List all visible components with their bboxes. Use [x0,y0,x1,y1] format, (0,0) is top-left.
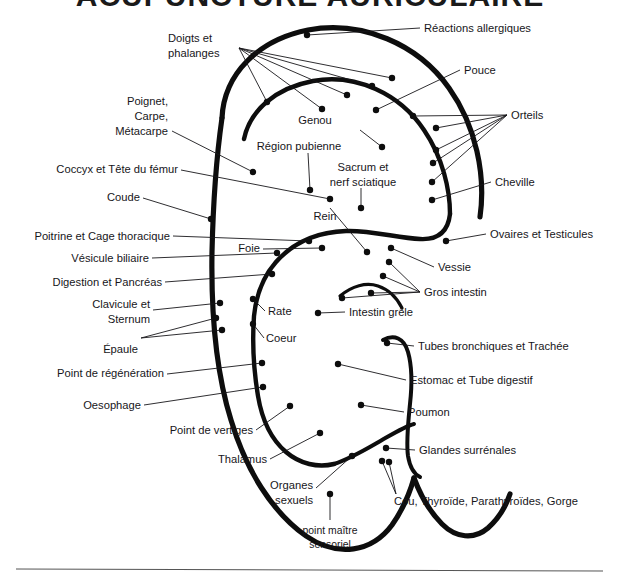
acupoint-dot [386,259,392,265]
leader-doigts-1 [239,48,392,78]
acupoint-dot [369,83,375,89]
acupoint-dot [260,384,266,390]
leader-gros-1 [389,262,420,292]
leader-cou-2 [389,462,396,494]
label-gros-intestin: Gros intestin [424,286,487,298]
acupoint-dot [368,290,374,296]
label-doigts-line2: phalanges [168,47,220,59]
leader-oesophage [144,387,263,405]
label-vertiges: Point de vertiges [170,424,254,436]
label-maitre-line1: point maître [303,525,358,536]
label-thalamus: Thalamus [218,453,268,465]
ear-diagram-svg: ACUPUNCTURE AURICULAIRE [0,0,619,582]
label-regeneration: Point de régénération [57,367,164,379]
leader-poumon [361,405,404,412]
acupoint-dot [269,271,275,277]
acupoint-dot [219,327,225,333]
acupoint-dot [327,196,333,202]
label-poignet-line3: Métacarpe [115,125,168,137]
acupoint-dot [250,169,256,175]
acupoint-dot [217,300,223,306]
leader-foie [263,248,322,249]
label-sacrum-line2: nerf sciatique [330,176,397,188]
acupoint-dot [344,92,350,98]
acupoint-dot [287,403,293,409]
leader-tubes [387,343,414,346]
label-genou: Genou [298,114,332,126]
leader-epaule-2 [141,330,222,338]
leader-poitrine [173,236,309,241]
acupoint-dot [213,315,219,321]
label-clavicule-line2: Sternum [108,313,150,325]
acupoint-dot [319,245,325,251]
footer-divider [16,569,603,571]
label-coeur: Coeur [266,332,297,344]
label-poitrine: Poitrine et Cage thoracique [34,230,170,242]
acupoint-dot [410,113,416,119]
acupoint-dot [379,144,385,150]
acupoint-dot [259,360,265,366]
label-coccyx: Coccyx et Tête du fémur [56,163,178,175]
leader-coude [143,198,211,219]
leader-doigts-2 [239,48,372,86]
acupoint-dot [208,216,214,222]
label-organes-line2: sexuels [275,494,313,506]
label-orteils: Orteils [511,109,544,121]
acupoint-dot [358,205,364,211]
acupoint-dot [433,125,439,131]
helix-crus-hook [340,284,402,308]
acupoint-dot [250,321,256,327]
leader-clavicule [153,303,220,310]
acupoint-dot [307,187,313,193]
leader-orteils-3 [436,115,507,150]
label-pouce: Pouce [464,64,496,76]
acupoint-dot [274,250,280,256]
label-epaule: Épaule [103,343,138,355]
leader-poignet [172,131,253,172]
label-vesicule: Vésicule biliaire [71,252,149,264]
acupoint-dot [429,179,435,185]
acupoint-dot [443,238,449,244]
acupoint-dot [388,245,394,251]
leader-regeneration [167,363,262,374]
label-coude: Coude [107,191,140,203]
leader-estomac [338,364,406,380]
leader-region-pubienne [308,153,310,190]
label-tubes: Tubes bronchiques et Trachée [418,340,569,352]
ear-acupuncture-chart-page: ACUPUNCTURE AURICULAIRE [0,0,619,582]
label-reactions: Réactions allergiques [424,22,531,34]
leader-glandes [386,448,415,450]
acupoint-dot [250,296,256,302]
label-clavicule-line1: Clavicule et [92,298,151,310]
antitragus-contour [334,424,414,464]
acupoint-dot [304,32,310,38]
acupoint-dot [373,107,379,113]
acupoint-dot [317,430,323,436]
acupoint-dot [339,295,345,301]
label-maitre-line2: sensoriel [309,539,351,550]
label-oesophage: Oesophage [83,399,141,411]
leader-digestion [165,274,272,282]
leader-vessie [391,248,434,267]
acupoint-dot [335,361,341,367]
acupoint-dot [384,340,390,346]
label-poignet-line2: Carpe, [134,110,168,122]
acupoint-dot [358,402,364,408]
label-vessie: Vessie [438,261,471,273]
label-region-pubienne: Région pubienne [257,140,342,152]
label-rate: Rate [268,305,292,317]
label-digestion: Digestion et Pancréas [53,276,163,288]
label-organes-line1: Organes [270,479,313,491]
label-poignet-line1: Poignet, [127,95,168,107]
label-foie: Foie [238,242,260,254]
label-ovaires: Ovaires et Testicules [490,228,593,240]
label-glandes: Glandes surrénales [419,444,516,456]
acupoint-dot [383,445,389,451]
helix-outer-upper [222,28,482,217]
label-rein: Rein [313,210,336,222]
acupoint-dot [386,459,392,465]
acupoint-dot [264,99,270,105]
label-intestin-grele: Intestin grêle [349,306,413,318]
acupoint-dot [429,197,435,203]
label-cou: Cou, Thyroïde, Parathyroïdes, Gorge [394,495,578,507]
